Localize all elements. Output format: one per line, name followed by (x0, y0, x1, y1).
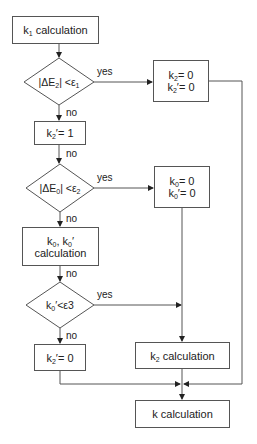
k1-calc-text: calculation (33, 24, 88, 36)
k0-calculation-box: k0, k0′ calculation (22, 227, 99, 266)
k1-calculation-box: k1 calculation (12, 16, 99, 44)
k2c-b: calculation (160, 350, 215, 362)
no-label-1: no (66, 107, 77, 118)
no-label-1b: no (66, 148, 77, 159)
k2z-l1b: = 0 (178, 69, 194, 81)
yes-label-3: yes (97, 289, 113, 300)
dec3-b: ′<ε3 (55, 299, 74, 311)
no-label-2b: no (66, 268, 77, 279)
k0c-l1b: , k (56, 235, 68, 247)
k0z-l2b: ′= 0 (178, 187, 196, 199)
decision-delta-e0: |ΔE0| <ε2 (39, 182, 80, 194)
yes-label-2: yes (97, 172, 113, 183)
k2z-l2b: ′= 0 (177, 81, 195, 93)
dec1-part-a: |ΔE (38, 76, 55, 88)
dec2-part-b: | <ε (60, 182, 76, 194)
dec1-part-b: | <ε (59, 76, 75, 88)
no-label-2: no (66, 213, 77, 224)
k-calculation-box: k calculation (135, 400, 230, 428)
dec2-sub-b: 2 (77, 188, 81, 195)
k2p1-b: ′= 1 (56, 127, 74, 139)
k2p0-b: ′= 0 (56, 352, 74, 364)
k0-zero-box: k0= 0 k0′= 0 (154, 166, 210, 208)
connector-lines (0, 0, 257, 444)
k2-prime-one-box: k2′= 1 (34, 121, 86, 145)
kc-text: k calculation (152, 408, 213, 420)
yes-label-1: yes (97, 66, 113, 77)
k0z-l1b: = 0 (179, 175, 195, 187)
dec2-part-a: |ΔE (39, 182, 56, 194)
k2-prime-zero-box: k2′= 0 (34, 344, 86, 371)
k0c-l1c: ′ (72, 235, 74, 247)
k2-zero-box: k2= 0 k2′= 0 (153, 60, 209, 102)
decision-k0-prime-eps3: k0′<ε3 (46, 299, 74, 311)
dec1-sub-b: 1 (76, 82, 80, 89)
k0c-l2: calculation (35, 247, 87, 259)
decision-delta-e2: |ΔE2| <ε1 (38, 76, 79, 88)
no-label-3: no (66, 330, 77, 341)
k2-calculation-box: k2 calculation (135, 342, 230, 369)
